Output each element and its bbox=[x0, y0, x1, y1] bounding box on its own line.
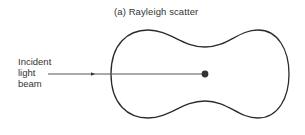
beam-arrowhead-icon bbox=[91, 72, 95, 75]
diagram-canvas bbox=[0, 0, 305, 135]
rayleigh-scatter-figure: (a) Rayleigh scatter Incident light beam bbox=[0, 0, 305, 135]
particle-dot bbox=[202, 71, 209, 78]
